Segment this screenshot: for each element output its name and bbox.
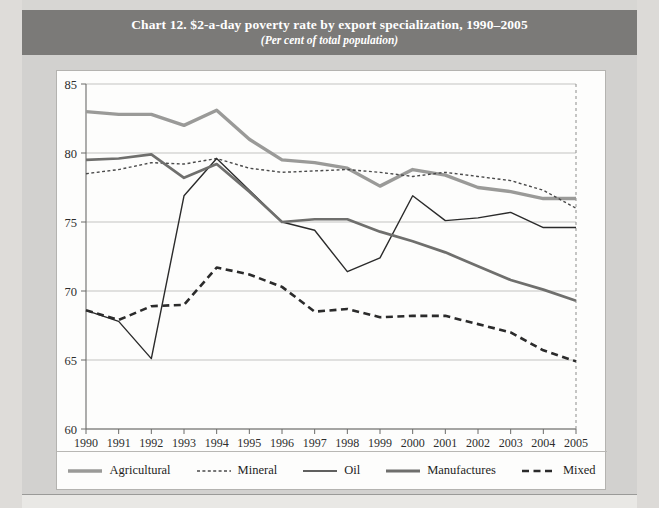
x-axis-label: 1993 <box>172 436 196 450</box>
legend-item-oil: Oil <box>303 463 360 478</box>
y-axis-label: 85 <box>65 78 78 92</box>
chart-legend: Agricultural Mineral Oil Manufactures <box>57 451 607 489</box>
x-axis-label: 2002 <box>466 436 490 450</box>
x-axis-label: 1996 <box>270 436 294 450</box>
page-right-margin <box>637 0 659 508</box>
chart-title: Chart 12. $2-a-day poverty rate by expor… <box>131 17 528 33</box>
x-axis-label: 1999 <box>368 436 392 450</box>
y-axis-label: 75 <box>65 216 78 230</box>
legend-label-oil: Oil <box>344 463 360 478</box>
x-axis-label: 1997 <box>303 436 327 450</box>
legend-swatch-manufactures <box>386 465 420 477</box>
x-axis-label: 1992 <box>139 436 163 450</box>
x-axis-label: 1994 <box>205 436 229 450</box>
legend-label-mixed: Mixed <box>563 463 596 478</box>
legend-swatch-mixed <box>522 465 556 477</box>
page-left-margin <box>0 0 22 508</box>
legend-item-mineral: Mineral <box>197 463 278 478</box>
y-axis-label: 70 <box>65 285 78 299</box>
legend-item-manufactures: Manufactures <box>386 463 496 478</box>
legend-label-mineral: Mineral <box>238 463 278 478</box>
plot-area: 6065707580851990199119921993199419951996… <box>57 71 607 491</box>
x-axis-label: 1991 <box>107 436 131 450</box>
y-axis-label: 60 <box>65 423 78 437</box>
page-bottom-margin <box>22 495 637 508</box>
legend-swatch-mineral <box>197 465 231 477</box>
x-axis-label: 1990 <box>74 436 98 450</box>
series-line-agricultural <box>86 110 576 198</box>
y-axis-label: 65 <box>65 354 78 368</box>
x-axis-label: 1998 <box>335 436 359 450</box>
x-axis-label: 2000 <box>401 436 425 450</box>
y-axis-label: 80 <box>65 147 78 161</box>
legend-item-agricultural: Agricultural <box>68 463 170 478</box>
series-line-oil <box>86 159 576 359</box>
legend-swatch-agricultural <box>68 465 102 477</box>
x-axis-label: 2004 <box>531 436 555 450</box>
line-chart: 6065707580851990199119921993199419951996… <box>57 71 607 491</box>
x-axis-label: 2005 <box>564 436 588 450</box>
legend-swatch-oil <box>303 465 337 477</box>
chart-subtitle: (Per cent of total population) <box>261 34 398 48</box>
page-top-margin <box>0 0 659 10</box>
legend-item-mixed: Mixed <box>522 463 596 478</box>
series-line-manufactures <box>86 154 576 300</box>
chart-card: 6065707580851990199119921993199419951996… <box>56 70 606 490</box>
x-axis-label: 1995 <box>237 436 261 450</box>
page-root: Chart 12. $2-a-day poverty rate by expor… <box>0 0 659 508</box>
x-axis-label: 2001 <box>433 436 457 450</box>
chart-title-banner: Chart 12. $2-a-day poverty rate by expor… <box>22 10 637 55</box>
x-axis-label: 2003 <box>499 436 523 450</box>
legend-label-agricultural: Agricultural <box>109 463 170 478</box>
legend-label-manufactures: Manufactures <box>427 463 496 478</box>
